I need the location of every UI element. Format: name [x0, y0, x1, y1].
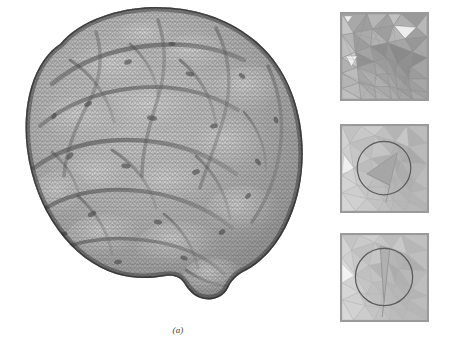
panel-b-svg [342, 14, 427, 99]
panel-d-frame [340, 233, 429, 322]
brain-mesh-svg [0, 0, 330, 322]
brain-mesh-render [0, 0, 330, 322]
figure-root: (a) [0, 0, 449, 354]
panel-d-zoom3: (d) [340, 233, 429, 322]
panel-a-brain-mesh: (a) [0, 0, 330, 354]
panel-b-frame [340, 12, 429, 101]
panel-c-frame [340, 124, 429, 213]
panel-b-zoom1: (b) [340, 12, 429, 101]
panel-d-svg [342, 235, 427, 320]
panel-a-label: (a) [158, 326, 198, 335]
brain-body [0, 0, 330, 322]
panel-c-svg [342, 126, 427, 211]
panel-c-zoom2: (c) [340, 124, 429, 213]
